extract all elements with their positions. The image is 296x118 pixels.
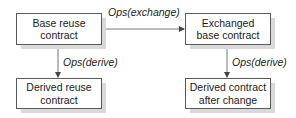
node-derived-contract-after-change: Derived contract after change (185, 78, 271, 109)
node-label-line1: Base reuse (32, 17, 85, 30)
node-label-line1: Derived contract (190, 81, 266, 94)
node-label-line2: base contract (196, 29, 259, 42)
node-label-line2: after change (190, 94, 266, 107)
node-label-line2: contract (26, 94, 91, 107)
node-derived-reuse-contract: Derived reuse contract (16, 78, 102, 109)
node-label-line1: Derived reuse (26, 81, 91, 94)
edge-label-derive-right: Ops(derive) (232, 56, 287, 68)
node-base-reuse-contract: Base reuse contract (16, 13, 102, 45)
node-label-line2: contract (32, 29, 85, 42)
edge-label-derive-left: Ops(derive) (63, 56, 118, 68)
node-exchanged-base-contract: Exchanged base contract (185, 13, 271, 45)
edge-label-exchange: Ops(exchange) (108, 6, 180, 18)
node-label-line1: Exchanged (196, 17, 259, 30)
